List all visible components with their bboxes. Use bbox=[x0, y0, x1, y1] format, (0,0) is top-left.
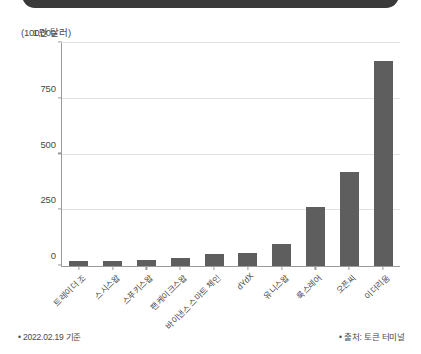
bar-slot: 유니스왑 bbox=[265, 43, 299, 266]
y-tick-label-250: 250 bbox=[40, 194, 56, 205]
bar-slot: 스푸키스왑 bbox=[130, 43, 164, 266]
bar-slot: dYdX bbox=[231, 43, 265, 266]
bar bbox=[171, 258, 190, 266]
x-tick-mark bbox=[213, 266, 214, 270]
y-tick-label-500: 500 bbox=[40, 138, 56, 149]
x-axis-label: 스시스왑 bbox=[91, 271, 121, 301]
y-tick-label-0: 0 bbox=[51, 250, 56, 261]
x-tick-mark bbox=[349, 266, 350, 270]
bar bbox=[205, 254, 224, 266]
bar-slot: 스시스왑 bbox=[96, 43, 130, 266]
y-tick-label-750: 750 bbox=[40, 82, 56, 93]
x-axis-label: 유니스왑 bbox=[260, 271, 290, 301]
bar bbox=[340, 172, 359, 266]
x-tick-mark bbox=[247, 266, 248, 270]
bar-slot: 오픈씨 bbox=[332, 43, 366, 266]
x-axis-label: 트레이더 조 bbox=[50, 271, 87, 308]
bar-slot: 이더리움 bbox=[366, 43, 400, 266]
x-tick-mark bbox=[281, 266, 282, 270]
x-axis-label: 오픈씨 bbox=[333, 271, 358, 296]
x-axis-label: 이더리움 bbox=[361, 271, 391, 301]
bar-chart: (100만 달러) 02505007501,000 트레이더 조스시스왑스푸키스… bbox=[0, 0, 421, 354]
bar bbox=[238, 253, 257, 266]
x-tick-mark bbox=[180, 266, 181, 270]
bar-slot: 룩스레어 bbox=[299, 43, 333, 266]
x-tick-mark bbox=[78, 266, 79, 270]
bar-series: 트레이더 조스시스왑스푸키스왑팬케이크스왑바이낸스 스마트 체인dYdX유니스왑… bbox=[62, 43, 400, 266]
bar-slot: 트레이더 조 bbox=[62, 43, 96, 266]
plot-area: 02505007501,000 트레이더 조스시스왑스푸키스왑팬케이크스왑바이낸… bbox=[61, 43, 400, 267]
x-tick-mark bbox=[315, 266, 316, 270]
footnote-date: • 2022.02.19 기준 bbox=[18, 330, 81, 342]
x-axis-label: 룩스레어 bbox=[294, 271, 324, 301]
x-tick-mark bbox=[382, 266, 383, 270]
x-tick-mark bbox=[146, 266, 147, 270]
x-tick-mark bbox=[112, 266, 113, 270]
x-axis-label: dYdX bbox=[234, 271, 255, 292]
bar bbox=[272, 244, 291, 266]
footnote-source: • 출처: 토큰 터미널 bbox=[339, 330, 405, 342]
bar-slot: 팬케이크스왑 bbox=[163, 43, 197, 266]
y-tick-label-1000: 1,000 bbox=[33, 27, 56, 38]
bar bbox=[374, 61, 393, 266]
bar bbox=[306, 207, 325, 266]
bar-slot: 바이낸스 스마트 체인 bbox=[197, 43, 231, 266]
